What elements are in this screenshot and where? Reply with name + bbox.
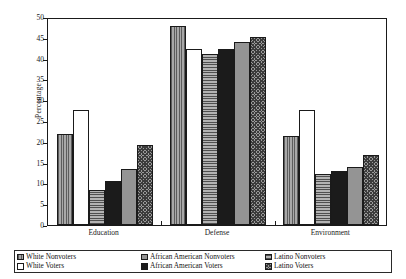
legend-item: African American Voters	[141, 262, 265, 270]
legend-swatch-icon	[265, 254, 272, 261]
x-axis-label: Defense	[160, 228, 273, 237]
legend-label: African American Voters	[150, 262, 223, 270]
bar	[234, 42, 250, 225]
bar-group	[275, 19, 388, 225]
legend-item: Latino Nonvoters	[265, 253, 389, 261]
y-tick-label: 45	[20, 35, 44, 42]
legend-label: White Voters	[26, 262, 64, 270]
y-tick-label: 25	[20, 118, 44, 125]
legend-item: White Voters	[17, 262, 141, 270]
bar	[331, 171, 347, 225]
bar	[73, 110, 89, 225]
bar-group	[48, 19, 161, 225]
legend-swatch-icon	[141, 254, 148, 261]
chart-legend: White NonvotersAfrican American Nonvoter…	[14, 250, 392, 273]
bar	[315, 174, 331, 225]
x-axis-label: Environment	[274, 228, 387, 237]
y-tick-mark	[43, 226, 47, 227]
bar	[137, 145, 153, 225]
bar	[299, 110, 315, 225]
bar	[186, 49, 202, 225]
y-tick-label: 15	[20, 160, 44, 167]
y-tick-label: 30	[20, 97, 44, 104]
legend-label: Latino Voters	[274, 262, 313, 270]
legend-swatch-icon	[141, 263, 148, 270]
bar	[89, 190, 105, 225]
bar	[57, 134, 73, 225]
bar	[121, 169, 137, 225]
bar	[347, 167, 363, 225]
plot-area	[47, 18, 387, 226]
legend-swatch-icon	[265, 263, 272, 270]
y-tick-label: 0	[20, 222, 44, 229]
bar	[250, 37, 266, 225]
bar-group	[161, 19, 274, 225]
bar	[170, 26, 186, 225]
x-group-separator	[275, 221, 276, 226]
bar	[283, 136, 299, 225]
legend-swatch-icon	[17, 263, 24, 270]
bar	[202, 54, 218, 225]
legend-label: White Nonvoters	[26, 253, 76, 261]
chart-figure: Percentage 05101520253035404550 Educatio…	[0, 0, 406, 279]
y-tick-label: 50	[20, 14, 44, 21]
legend-item: African American Nonvoters	[141, 253, 265, 261]
y-tick-label: 5	[20, 201, 44, 208]
y-tick-label: 40	[20, 56, 44, 63]
x-group-separator	[161, 221, 162, 226]
y-tick-label: 20	[20, 139, 44, 146]
legend-label: Latino Nonvoters	[274, 253, 325, 261]
legend-item: White Nonvoters	[17, 253, 141, 261]
bar	[105, 181, 121, 225]
legend-label: African American Nonvoters	[150, 253, 235, 261]
legend-swatch-icon	[17, 254, 24, 261]
bar	[363, 155, 379, 225]
bar	[218, 49, 234, 225]
x-axis-label: Education	[47, 228, 160, 237]
y-tick-label: 10	[20, 180, 44, 187]
y-tick-label: 35	[20, 76, 44, 83]
legend-item: Latino Voters	[265, 262, 389, 270]
